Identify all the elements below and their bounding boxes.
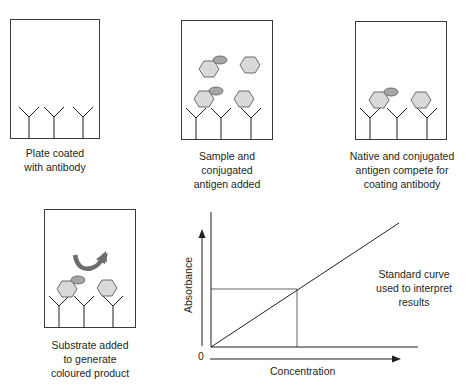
caption-panel-3: Native and conjugated antigen compete fo… <box>338 149 466 191</box>
curved-arrow-icon <box>75 251 108 269</box>
panel-2-plate <box>182 21 273 141</box>
caption-line: Sample and <box>172 149 282 163</box>
well-box <box>356 22 447 140</box>
well-box <box>182 21 273 140</box>
chart-annotation: Standard curve used to interpret results <box>362 267 466 309</box>
caption-panel-2: Sample and conjugated antigen added <box>172 149 282 191</box>
caption-line: Substrate added <box>30 338 150 352</box>
annotation-line: results <box>362 295 466 309</box>
y-axis-arrow-icon <box>199 229 206 346</box>
antibody-icon <box>103 296 123 328</box>
bound-antigen-icon <box>97 280 117 296</box>
annotation-line: Standard curve <box>362 267 466 281</box>
conjugate-icon <box>213 56 227 64</box>
bound-antigen-icon <box>234 91 254 107</box>
origin-label: 0 <box>198 349 204 363</box>
panel-3-plate <box>356 22 447 141</box>
antibody-icon <box>387 108 407 140</box>
panel-1-plate <box>11 20 100 140</box>
x-axis-arrow-icon <box>210 356 401 363</box>
well-box <box>11 20 100 139</box>
caption-line: Plate coated <box>5 146 105 160</box>
caption-line: conjugated <box>172 163 282 177</box>
antibody-icon <box>211 108 231 140</box>
antibody-icon <box>44 107 64 139</box>
antibody-icon <box>74 296 94 328</box>
panel-4-plate <box>45 210 136 329</box>
conjugate-icon <box>384 88 398 96</box>
antibody-icon <box>19 107 39 139</box>
conjugate-icon <box>209 87 223 95</box>
x-axis-label: Concentration <box>270 364 335 378</box>
elisa-diagram <box>0 0 468 390</box>
caption-line: coloured product <box>30 366 150 380</box>
caption-line: antigen compete for <box>338 163 466 177</box>
antibody-icon <box>241 108 261 140</box>
antibody-icon <box>49 296 69 328</box>
annotation-line: used to interpret <box>362 281 466 295</box>
antibody-icon <box>186 108 206 140</box>
caption-line: antigen added <box>172 177 282 191</box>
antibody-icon <box>417 108 437 140</box>
free-antigen-icon <box>240 57 260 73</box>
caption-line: Native and conjugated <box>338 149 466 163</box>
caption-panel-1: Plate coated with antibody <box>5 146 105 174</box>
caption-line: with antibody <box>5 160 105 174</box>
caption-line: to generate <box>30 352 150 366</box>
bound-antigen-icon <box>411 92 431 108</box>
caption-line: coating antibody <box>338 177 466 191</box>
antibody-icon <box>360 108 380 140</box>
y-axis-label: Absorbance <box>182 259 194 313</box>
conjugate-icon <box>71 276 85 284</box>
caption-panel-4: Substrate added to generate coloured pro… <box>30 338 150 380</box>
antibody-icon <box>73 107 93 139</box>
